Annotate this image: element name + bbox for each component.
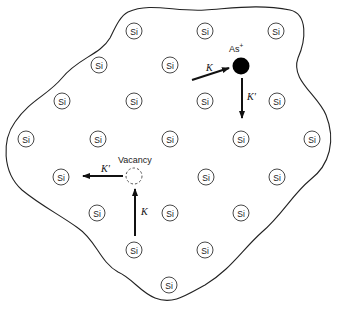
arrow-k-prime-from-vacancy-label: K' <box>100 163 111 174</box>
si-atom-label: Si <box>166 61 174 71</box>
si-atom: Si <box>304 131 320 147</box>
si-atom-label: Si <box>202 173 210 183</box>
si-atoms: SiSiSiSiSiSiSiSiSiSiSiSiSiSiSiSiSiSiSiSi… <box>18 23 320 293</box>
si-atom-label: Si <box>237 209 245 219</box>
crystal-boundary <box>6 7 331 301</box>
arsenic-ion: As+ <box>229 42 250 75</box>
si-atom-label: Si <box>57 173 65 183</box>
si-atom: Si <box>53 169 69 185</box>
si-atom-label: Si <box>201 97 209 107</box>
si-atom: Si <box>197 93 213 109</box>
si-atom-label: Si <box>95 61 103 71</box>
si-atom-label: Si <box>130 246 138 256</box>
si-atom-label: Si <box>93 209 101 219</box>
arsenic-label: As+ <box>229 42 244 54</box>
si-atom: Si <box>162 57 178 73</box>
si-atom-label: Si <box>165 281 173 291</box>
si-atom-label: Si <box>22 135 30 145</box>
si-atom: Si <box>233 205 249 221</box>
si-atom: Si <box>162 205 178 221</box>
si-atom: Si <box>233 131 249 147</box>
vacancy-circle <box>126 168 142 184</box>
si-atom-label: Si <box>201 246 209 256</box>
arrow-k-prime-from-arsenic-label: K' <box>246 91 257 102</box>
si-atom-label: Si <box>58 97 66 107</box>
vacancy-label: Vacancy <box>118 155 152 165</box>
si-atom: Si <box>126 23 142 39</box>
si-atom-label: Si <box>237 135 245 145</box>
si-atom: Si <box>162 131 178 147</box>
arsenic-ion-circle <box>233 58 250 75</box>
si-atom: Si <box>91 57 107 73</box>
diffusion-diagram: SiSiSiSiSiSiSiSiSiSiSiSiSiSiSiSiSiSiSiSi… <box>0 0 338 312</box>
si-atom: Si <box>269 169 285 185</box>
si-atom-label: Si <box>201 27 209 37</box>
arrow-k-to-vacancy-label: K <box>140 206 149 217</box>
si-atom: Si <box>18 131 34 147</box>
vacancy: Vacancy <box>118 155 152 184</box>
si-atom-label: Si <box>166 209 174 219</box>
si-atom: Si <box>54 93 70 109</box>
si-atom-label: Si <box>166 135 174 145</box>
si-atom: Si <box>198 169 214 185</box>
si-atom: Si <box>126 242 142 258</box>
si-atom: Si <box>161 277 177 293</box>
si-atom: Si <box>126 93 142 109</box>
si-atom-label: Si <box>308 135 316 145</box>
si-atom: Si <box>268 23 284 39</box>
si-atom-label: Si <box>130 97 138 107</box>
si-atom-label: Si <box>94 135 102 145</box>
si-atom-label: Si <box>273 173 281 183</box>
si-atom-label: Si <box>130 27 138 37</box>
si-atom: Si <box>197 242 213 258</box>
si-atom: Si <box>197 23 213 39</box>
si-atom: Si <box>269 93 285 109</box>
si-atom: Si <box>89 205 105 221</box>
arrow-k-to-arsenic-label: K <box>205 62 214 73</box>
si-atom-label: Si <box>273 97 281 107</box>
si-atom-label: Si <box>272 27 280 37</box>
si-atom: Si <box>90 131 106 147</box>
